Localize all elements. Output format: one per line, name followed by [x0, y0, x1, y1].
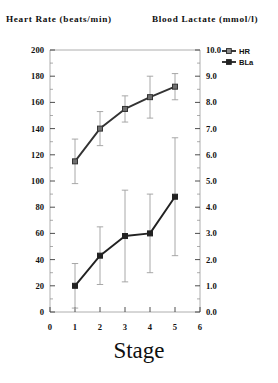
legend-item-hr: HR	[239, 47, 250, 56]
right-tick-label: 8.0	[206, 97, 240, 107]
chart-figure: Heart Rate (beats/min) Blood Lactate (mm…	[0, 0, 278, 383]
right-tick-label: 1.0	[206, 281, 240, 291]
left-tick-label: 60	[10, 228, 44, 238]
left-tick-label: 140	[10, 124, 44, 134]
left-tick-label: 100	[10, 176, 44, 186]
x-tick-label: 0	[42, 322, 58, 332]
x-tick-label: 5	[167, 322, 183, 332]
right-tick-label: 3.0	[206, 228, 240, 238]
left-tick-label: 200	[10, 45, 44, 55]
left-tick-label: 80	[10, 202, 44, 212]
right-tick-label: 0.0	[206, 307, 240, 317]
right-tick-label: 4.0	[206, 202, 240, 212]
legend-item-bla: BLa	[239, 58, 253, 67]
left-tick-label: 0	[10, 307, 44, 317]
right-tick-label: 6.0	[206, 150, 240, 160]
x-tick-label: 3	[117, 322, 133, 332]
left-tick-label: 160	[10, 97, 44, 107]
x-tick-label: 6	[192, 322, 208, 332]
right-tick-label: 10.0	[206, 45, 240, 55]
right-tick-label: 7.0	[206, 124, 240, 134]
left-tick-label: 20	[10, 281, 44, 291]
right-tick-label: 2.0	[206, 255, 240, 265]
right-tick-label: 9.0	[206, 71, 240, 81]
left-tick-label: 180	[10, 71, 44, 81]
x-axis-label: Stage	[0, 338, 278, 364]
left-tick-label: 120	[10, 150, 44, 160]
right-tick-label: 5.0	[206, 176, 240, 186]
x-tick-label: 2	[92, 322, 108, 332]
left-tick-label: 40	[10, 255, 44, 265]
x-tick-label: 1	[67, 322, 83, 332]
data-series-layer	[72, 74, 178, 308]
x-tick-label: 4	[142, 322, 158, 332]
